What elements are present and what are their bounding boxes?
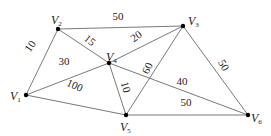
edge-weight-label: 50	[181, 96, 193, 108]
node-label-v2: V2	[51, 13, 62, 28]
weighted-graph-diagram: 10501530206010010405050V1V2V3V4V5V6	[0, 0, 271, 136]
edge-v1-v4	[26, 63, 109, 95]
edge-weight-label: 10	[119, 80, 134, 94]
node-label-v1: V1	[10, 89, 21, 104]
node-label-v3: V3	[188, 14, 199, 29]
node-v5	[124, 113, 128, 117]
labels-group: 10501530206010010405050V1V2V3V4V5V6	[10, 10, 262, 135]
node-v3	[181, 24, 185, 28]
node-label-v5: V5	[120, 120, 131, 135]
edge-v4-v3	[109, 26, 183, 63]
edge-weight-label: 20	[128, 28, 144, 44]
edge-weight-label: 30	[59, 55, 71, 67]
edge-v3-v6	[183, 26, 248, 115]
node-label-v6: V6	[251, 111, 262, 126]
edge-weight-label: 40	[177, 75, 189, 87]
edge-weight-label: 100	[65, 76, 85, 94]
edge-weight-label: 50	[216, 57, 232, 73]
node-v6	[246, 113, 250, 117]
node-label-v4: V4	[106, 50, 117, 65]
edge-v1-v2	[26, 29, 58, 95]
edge-v1-v5	[26, 95, 126, 115]
node-v1	[24, 93, 28, 97]
edge-v2-v3	[58, 26, 183, 29]
edge-weight-label: 15	[82, 32, 99, 49]
edge-weight-label: 50	[113, 10, 125, 22]
edge-weight-label: 10	[22, 38, 38, 54]
